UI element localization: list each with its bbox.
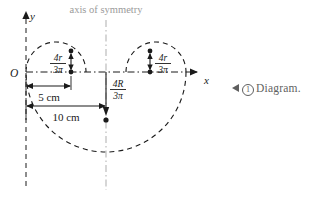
lower-semicircle-centroid-marker: 4R 3π [103,72,126,123]
dimension-5cm: 5 cm [26,76,71,103]
y-axis-arrowhead [22,11,29,19]
right-lobe-centroid-arrowhead-up [147,53,152,59]
left-lobe-centroid-arrowhead-up [68,53,73,59]
right-lobe-centroid-label-numerator: 4r [159,53,168,63]
left-lobe-centroid-top-dot [69,49,74,54]
figure-number-badge: 1 [242,84,254,96]
lower-semicircle-centroid-arrowhead-down [103,107,109,116]
right-lobe-centroid-arrowhead-down [147,65,152,71]
axis-of-symmetry-label: axis of symmetry [70,4,144,15]
y-axis: y [22,10,35,186]
left-lobe-centroid-marker: 4r 3π [50,49,74,75]
left-lobe-centroid-label-numerator: 4r [54,53,63,63]
left-triangle-icon [232,84,239,92]
dimension-5cm-label: 5 cm [38,91,60,103]
right-lobe-centroid-top-dot [148,49,153,54]
right-upper-lobe-arc [126,42,186,72]
right-lobe-centroid-marker: 4r 3π [147,49,171,75]
x-axis-arrowhead [190,68,198,75]
lower-semicircle-centroid-dot [103,117,108,122]
y-axis-label: y [29,10,35,22]
dimension-5cm-arrowhead-right [64,83,71,89]
right-lobe-centroid-label-denominator: 3π [157,65,168,75]
lower-semicircle-centroid-label-numerator: 4R [113,79,124,89]
dimension-10cm-arrowhead-left [26,103,33,109]
figure-caption-text: Diagram. [256,82,301,94]
figure-caption-note: 1Diagram. [232,82,301,96]
left-lobe-centroid-label-denominator: 3π [52,65,63,75]
heart-centroid-diagram: x y O axis of symmetry 4r 3π 4r 3π [0,0,328,199]
dimension-10cm-label: 10 cm [52,111,80,123]
lower-semicircle-centroid-label-denominator: 3π [112,91,123,101]
origin-label: O [10,67,19,79]
x-axis-label: x [203,74,209,86]
left-lobe-centroid-arrowhead-down [68,65,73,71]
